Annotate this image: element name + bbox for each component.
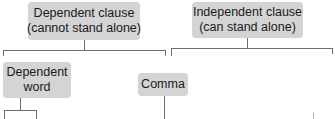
independent-clause-subtitle: (can stand alone) [193, 20, 302, 35]
comma-label: Comma [141, 77, 185, 92]
dependent-word-line1: Dependent [6, 65, 67, 80]
independent-clause-bracket [171, 48, 332, 49]
independent-clause-bracket-right-tick [332, 48, 333, 54]
dependent-clause-bracket-left-tick [3, 50, 4, 56]
dependent-clause-bracket-right-tick [165, 50, 166, 56]
comma-stem [164, 96, 165, 119]
independent-clause-node: Independent clause (can stand alone) [192, 2, 303, 38]
dependent-word-stem [20, 98, 21, 110]
dependent-clause-subtitle: (cannot stand alone) [27, 21, 141, 36]
dependent-word-node: Dependent word [3, 62, 71, 98]
independent-clause-title: Independent clause [193, 5, 302, 20]
partial-stem-right [313, 113, 314, 119]
comma-node: Comma [138, 73, 188, 96]
dependent-word-bracket-left-tick [4, 110, 5, 119]
dependent-word-bracket-right-tick [36, 110, 37, 119]
dependent-clause-bracket [3, 50, 165, 51]
dependent-word-line2: word [6, 80, 67, 95]
dependent-clause-title: Dependent clause [27, 6, 141, 21]
dependent-word-bracket [4, 110, 36, 111]
dependent-clause-stem [84, 40, 85, 50]
independent-clause-stem [247, 38, 248, 48]
independent-clause-bracket-left-tick [171, 48, 172, 56]
dependent-clause-node: Dependent clause (cannot stand alone) [28, 2, 140, 40]
